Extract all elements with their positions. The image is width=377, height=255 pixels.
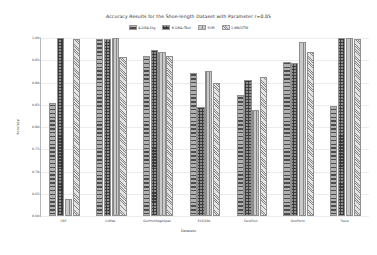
y-tick-label: 0.85 xyxy=(32,103,39,107)
chart-figure: Accuracy Results for the Shoe-length Dat… xyxy=(0,0,377,255)
legend-swatch-icon-0 xyxy=(129,25,137,30)
x-tick-label: GunPoint xyxy=(281,219,315,223)
bar[interactable] xyxy=(197,107,204,216)
x-tick-label: Trace xyxy=(327,219,361,223)
y-tick-label: 0.75 xyxy=(32,147,39,151)
legend-label-0: A-DBA-Stg xyxy=(138,26,155,30)
bar-group xyxy=(190,38,221,216)
legend-item-2[interactable]: SVM xyxy=(198,25,215,30)
x-axis-label: Datasets xyxy=(0,229,377,233)
y-tick-label: 0.60 xyxy=(32,214,39,218)
bar-group xyxy=(237,38,268,216)
legend-item-0[interactable]: A-DBA-Stg xyxy=(129,25,156,30)
bar[interactable] xyxy=(57,38,64,216)
bar[interactable] xyxy=(213,83,220,216)
bar[interactable] xyxy=(283,62,290,216)
bar[interactable] xyxy=(151,50,158,216)
bar[interactable] xyxy=(49,103,56,216)
bar[interactable] xyxy=(96,39,103,216)
bar[interactable] xyxy=(252,110,259,216)
bar[interactable] xyxy=(299,42,306,216)
legend-item-3[interactable]: 1-NN/DTW xyxy=(222,25,249,30)
legend-label-1: B-DBA-ITest xyxy=(172,26,191,30)
y-tick-label: 0.65 xyxy=(32,192,39,196)
legend-label-3: 1-NN/DTW xyxy=(231,26,248,30)
legend-swatch-icon-3 xyxy=(222,25,230,30)
y-tick-label: 0.95 xyxy=(32,58,39,62)
bar-group xyxy=(49,38,80,216)
bar-group xyxy=(330,38,361,216)
legend-label-2: SVM xyxy=(207,26,214,30)
legend-item-1[interactable]: B-DBA-ITest xyxy=(162,25,191,30)
x-tick-label: ECG200 xyxy=(187,219,221,223)
x-tick-label: Coffee xyxy=(93,219,127,223)
chart-title: Accuracy Results for the Shoe-length Dat… xyxy=(0,14,377,19)
bar[interactable] xyxy=(190,73,197,216)
y-tick-label: 1.00 xyxy=(32,36,39,40)
x-tick-label: FaceFour xyxy=(234,219,268,223)
bar[interactable] xyxy=(205,71,212,216)
bar[interactable] xyxy=(112,38,119,216)
y-tick-label: 0.70 xyxy=(32,170,39,174)
legend-swatch-icon-2 xyxy=(198,25,206,30)
bar[interactable] xyxy=(166,56,173,216)
bar[interactable] xyxy=(158,52,165,216)
bar[interactable] xyxy=(346,38,353,216)
bar[interactable] xyxy=(338,38,345,216)
bar[interactable] xyxy=(73,39,80,216)
bar-groups xyxy=(41,38,369,216)
bar-group xyxy=(283,38,314,216)
x-axis-tick-labels: CBFCoffeeGunPointAgeSpanECG200FaceFourGu… xyxy=(40,219,368,223)
bar[interactable] xyxy=(244,80,251,216)
bar[interactable] xyxy=(119,57,126,216)
x-tick-label: CBF xyxy=(46,219,80,223)
bar[interactable] xyxy=(330,106,337,216)
plot-area: Accuracy 1.000.950.900.850.800.750.700.6… xyxy=(40,38,369,217)
bar[interactable] xyxy=(354,39,361,216)
bar[interactable] xyxy=(104,39,111,216)
bar-group xyxy=(96,38,127,216)
bar[interactable] xyxy=(65,199,72,216)
bar-group xyxy=(143,38,174,216)
y-tick-label: 0.80 xyxy=(32,125,39,129)
x-tick-label: GunPointAgeSpan xyxy=(140,219,174,223)
y-axis-label: Accuracy xyxy=(16,119,20,134)
bar[interactable] xyxy=(143,56,150,216)
chart-legend: A-DBA-Stg B-DBA-ITest SVM 1-NN/DTW xyxy=(0,25,377,30)
gridline xyxy=(41,216,369,217)
bar[interactable] xyxy=(307,52,314,216)
y-tick-label: 0.90 xyxy=(32,81,39,85)
bar[interactable] xyxy=(260,77,267,216)
bar[interactable] xyxy=(237,95,244,216)
legend-swatch-icon-1 xyxy=(162,25,170,30)
bar[interactable] xyxy=(291,63,298,216)
